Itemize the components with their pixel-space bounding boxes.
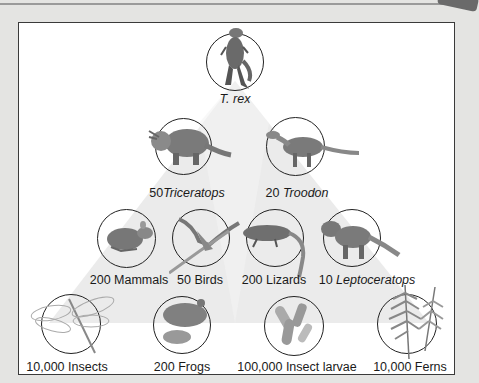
food-pyramid-panel: T. rex 50Triceratops 20 Troodon 200 Mamm… xyxy=(18,22,455,375)
tyrannosaurus-icon xyxy=(215,25,255,91)
troodon-icon xyxy=(263,127,361,167)
ferns-label: 10,000 Ferns xyxy=(373,360,447,374)
trex-label: T. rex xyxy=(220,92,251,106)
bird-icon xyxy=(169,211,241,277)
mammal-icon xyxy=(101,219,161,259)
frogs-label: 200 Frogs xyxy=(154,360,210,374)
lizards-label: 200 Lizards xyxy=(242,273,307,287)
fern-icon xyxy=(379,281,449,361)
insects-label: 10,000 Insects xyxy=(26,360,107,374)
page-corner-curl xyxy=(437,0,479,12)
triceratops-icon xyxy=(145,123,235,168)
dragonfly-icon xyxy=(29,285,119,355)
larvae-icon xyxy=(269,301,321,351)
troodon-label: 20 Troodon xyxy=(265,186,328,200)
triceratops-label: 50Triceratops xyxy=(149,186,225,200)
birds-label: 50 Birds xyxy=(177,273,223,287)
page-top-rule xyxy=(0,3,468,5)
frog-icon xyxy=(155,295,215,351)
leptoceratops-icon xyxy=(319,219,401,261)
lizard-icon xyxy=(241,219,313,279)
larvae-label: 100,000 Insect larvae xyxy=(237,360,357,374)
